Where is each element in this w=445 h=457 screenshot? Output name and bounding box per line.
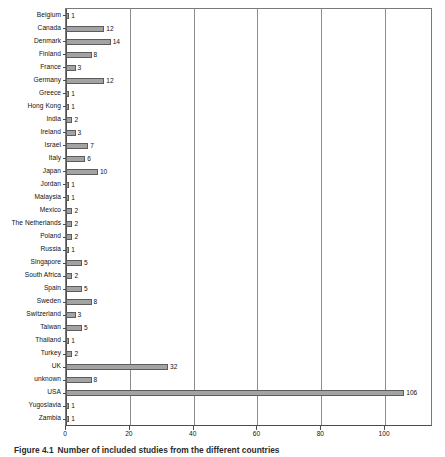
bar-value-label: 8 xyxy=(94,376,98,383)
category-label: unknown xyxy=(34,376,61,383)
bar: 12 xyxy=(66,78,104,84)
category-label: India xyxy=(46,116,61,123)
x-tick-label: 40 xyxy=(189,431,196,438)
y-tick xyxy=(63,354,66,355)
y-tick xyxy=(63,419,66,420)
bar: 32 xyxy=(66,364,168,370)
category-label: Israel xyxy=(45,142,61,149)
bar: 2 xyxy=(66,234,72,240)
category-label: Singapore xyxy=(30,259,61,266)
bar-row: The Netherlands2 xyxy=(66,217,431,230)
bar-row: Spain5 xyxy=(66,282,431,295)
x-tick-label: 80 xyxy=(317,431,324,438)
bar: 8 xyxy=(66,52,92,58)
y-tick xyxy=(63,276,66,277)
bar-value-label: 1 xyxy=(71,246,75,253)
bar-row: Switzerland3 xyxy=(66,308,431,321)
category-label: Greece xyxy=(39,90,61,97)
category-label: South Africa xyxy=(25,272,61,279)
bar-value-label: 12 xyxy=(106,25,113,32)
category-label: Yugoslavia xyxy=(29,402,61,409)
figure-container: Belgium1Canada12Denmark14Finland8France3… xyxy=(0,0,445,457)
bar-value-label: 106 xyxy=(406,389,417,396)
bar-value-label: 5 xyxy=(84,259,88,266)
bar-row: unknown8 xyxy=(66,373,431,386)
y-tick xyxy=(63,210,66,211)
bar: 8 xyxy=(66,377,92,383)
bar: 10 xyxy=(66,169,98,175)
bar-row: Poland2 xyxy=(66,230,431,243)
category-label: Switzerland xyxy=(26,311,61,318)
bar-row: Ireland3 xyxy=(66,126,431,139)
bar: 5 xyxy=(66,260,82,266)
category-label: Italy xyxy=(49,155,61,162)
bar-row: Jordan1 xyxy=(66,178,431,191)
caption-number: Figure 4.1 xyxy=(14,446,54,455)
bar: 1 xyxy=(66,195,69,201)
category-label: Canada xyxy=(38,25,61,32)
figure-caption: Figure 4.1Number of included studies fro… xyxy=(14,446,434,456)
y-tick xyxy=(63,132,66,133)
bar-value-label: 1 xyxy=(71,194,75,201)
bar: 106 xyxy=(66,390,404,396)
bar-value-label: 7 xyxy=(90,142,94,149)
category-label: USA xyxy=(47,389,61,396)
y-tick xyxy=(63,15,66,16)
bar: 12 xyxy=(66,26,104,32)
bar: 8 xyxy=(66,299,92,305)
y-tick xyxy=(63,54,66,55)
bar-row: Sweden8 xyxy=(66,295,431,308)
bar: 6 xyxy=(66,156,85,162)
bar: 1 xyxy=(66,104,69,110)
bar-row: France3 xyxy=(66,61,431,74)
y-tick xyxy=(63,263,66,264)
y-tick xyxy=(63,171,66,172)
bar-row: Canada12 xyxy=(66,22,431,35)
category-label: Hong Kong xyxy=(28,103,61,110)
bar-value-label: 3 xyxy=(78,129,82,136)
y-tick xyxy=(63,93,66,94)
category-label: France xyxy=(40,64,61,71)
y-tick xyxy=(63,393,66,394)
bar-row: Mexico2 xyxy=(66,204,431,217)
y-axis-ticks xyxy=(63,8,66,426)
bar: 5 xyxy=(66,286,82,292)
bar: 14 xyxy=(66,39,111,45)
bar-value-label: 8 xyxy=(94,298,98,305)
bar-row: Finland8 xyxy=(66,48,431,61)
bar-value-label: 2 xyxy=(74,350,78,357)
x-axis-ticks: 020406080100 xyxy=(65,426,432,442)
bar: 1 xyxy=(66,247,69,253)
plot-area: Belgium1Canada12Denmark14Finland8France3… xyxy=(65,8,432,426)
bar: 1 xyxy=(66,403,69,409)
bar-row: Denmark14 xyxy=(66,35,431,48)
category-label: Denmark xyxy=(34,38,61,45)
bar: 2 xyxy=(66,351,72,357)
category-label: Sweden xyxy=(37,298,61,305)
bar-value-label: 1 xyxy=(71,103,75,110)
bar-rows: Belgium1Canada12Denmark14Finland8France3… xyxy=(66,9,431,425)
bar-value-label: 2 xyxy=(74,272,78,279)
caption-text: Number of included studies from the diff… xyxy=(58,446,280,455)
y-tick xyxy=(63,41,66,42)
bar-row: Germany12 xyxy=(66,74,431,87)
category-label: Japan xyxy=(43,168,61,175)
bar-value-label: 2 xyxy=(74,207,78,214)
bar-row: UK32 xyxy=(66,360,431,373)
y-tick xyxy=(63,158,66,159)
bar-value-label: 12 xyxy=(106,77,113,84)
category-label: Zambia xyxy=(39,415,61,422)
x-tick-label: 0 xyxy=(63,431,67,438)
bar: 3 xyxy=(66,65,76,71)
y-tick xyxy=(63,289,66,290)
category-label: Poland xyxy=(40,233,61,240)
bar-row: Zambia1 xyxy=(66,412,431,425)
category-label: Jordan xyxy=(41,181,61,188)
category-label: The Netherlands xyxy=(12,220,62,227)
bar-row: South Africa2 xyxy=(66,269,431,282)
bar-value-label: 3 xyxy=(78,64,82,71)
category-label: Belgium xyxy=(37,12,61,19)
y-tick xyxy=(63,315,66,316)
category-label: Taiwan xyxy=(40,324,61,331)
y-tick xyxy=(63,119,66,120)
